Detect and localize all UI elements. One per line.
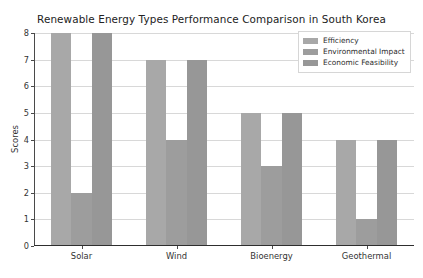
x-tick-mark — [177, 246, 178, 249]
chart-legend: EfficiencyEnvironmental ImpactEconomic F… — [298, 31, 411, 73]
y-tick-label: 5 — [24, 109, 29, 117]
bar — [261, 166, 282, 246]
legend-label: Efficiency — [323, 37, 359, 44]
chart-figure: Renewable Energy Types Performance Compa… — [0, 0, 423, 278]
legend-item[interactable]: Efficiency — [303, 36, 405, 46]
bar — [356, 219, 377, 246]
y-tick-label: 3 — [24, 162, 29, 170]
x-axis-spine — [34, 245, 414, 247]
bar — [282, 113, 303, 246]
bar — [187, 60, 208, 246]
y-axis-spine — [34, 33, 35, 246]
bar — [166, 140, 187, 247]
legend-item[interactable]: Economic Feasibility — [303, 58, 405, 68]
bar — [51, 33, 72, 246]
x-tick-mark — [82, 246, 83, 249]
x-tick-mark — [272, 246, 273, 249]
y-tick-label: 6 — [24, 82, 29, 90]
x-tick-label: Bioenergy — [250, 251, 292, 261]
y-tick-label: 7 — [24, 56, 29, 64]
y-tick-label: 8 — [24, 29, 29, 37]
y-tick-label: 1 — [24, 215, 29, 223]
x-tick-label: Wind — [166, 251, 187, 261]
bar — [92, 33, 113, 246]
legend-label: Economic Feasibility — [323, 59, 398, 66]
x-tick-label: Solar — [71, 251, 92, 261]
x-tick-mark — [367, 246, 368, 249]
x-tick-label: Geothermal — [342, 251, 391, 261]
y-tick-label: 4 — [24, 135, 29, 143]
y-axis-label: Scores — [10, 125, 20, 153]
y-tick-label: 0 — [24, 242, 29, 250]
legend-swatch-icon — [303, 60, 318, 66]
legend-swatch-icon — [303, 49, 318, 55]
bar — [336, 140, 357, 247]
legend-label: Environmental Impact — [323, 48, 405, 55]
chart-title: Renewable Energy Types Performance Compa… — [0, 13, 423, 25]
y-tick-label: 2 — [24, 189, 29, 197]
legend-swatch-icon — [303, 38, 318, 44]
y-tick-mark — [31, 246, 34, 247]
bar — [377, 140, 398, 247]
bar — [71, 193, 92, 246]
bar — [146, 60, 167, 246]
legend-item[interactable]: Environmental Impact — [303, 47, 405, 57]
bar — [241, 113, 262, 246]
